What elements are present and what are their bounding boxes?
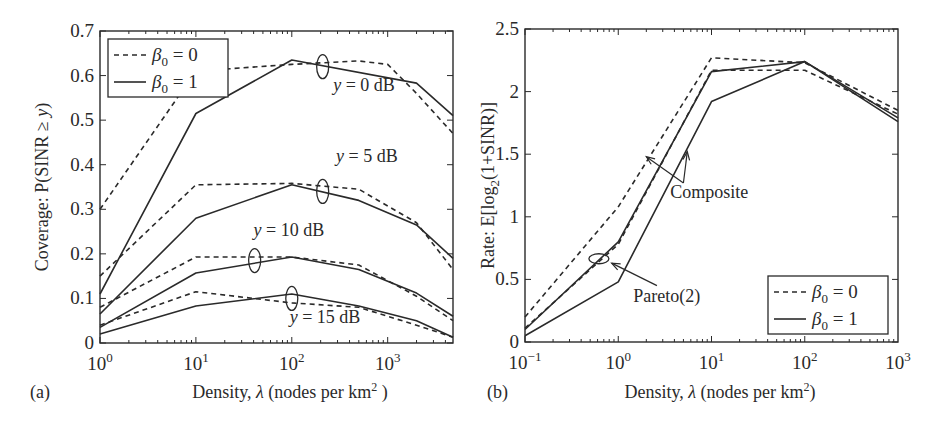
x-tick-base: 10 (699, 352, 718, 373)
x-tick-base: 10 (375, 353, 394, 374)
annotation-var: y (288, 307, 298, 327)
x-tick-exponent: 0 (625, 349, 632, 364)
legend-value: = 1 (828, 308, 858, 329)
y-axis-title: Coverage: P(SINR ≥ y) (32, 103, 53, 271)
y-axis-title: Rate: E[log2(1+SINR)] (478, 102, 502, 269)
curve-annotation: y = 10 dB (252, 220, 325, 240)
x-tick-exponent: 1 (718, 349, 725, 364)
x-tick-exponent: 0 (106, 350, 113, 365)
x-tick-base: 10 (885, 352, 904, 373)
y-tick-label: 0.5 (70, 109, 94, 130)
panel-b-rate-chart: 10−110010110210300.511.522.5CompositePar… (478, 18, 911, 403)
annotation-text: Composite (670, 182, 748, 202)
legend-beta: β (151, 71, 162, 92)
chart-canvas: 10010110210300.10.20.30.40.50.60.7y = 0 … (0, 0, 943, 433)
y-tick-label: 1.5 (495, 143, 519, 164)
panel-label: (b) (487, 382, 508, 403)
annotation-text: Pareto(2) (633, 286, 700, 307)
curve-annotation: y = 5 dB (334, 146, 398, 166)
legend-beta: β (811, 308, 822, 329)
curve-group-ellipse (249, 249, 261, 273)
x-tick-label: 102 (279, 350, 305, 374)
x-tick-base: 10 (279, 353, 298, 374)
y-tick-label: 1 (510, 206, 520, 227)
y-tick-label: 0.6 (70, 65, 94, 86)
y-title-var: y (32, 109, 52, 119)
x-tick-exponent: 3 (904, 349, 911, 364)
x-tick-label: 103 (375, 350, 401, 374)
legend-beta: β (811, 281, 822, 302)
curve-annotation: Pareto(2) (633, 286, 700, 307)
x-axis-title: Density, λ (nodes per km2) (624, 380, 815, 403)
y-tick-label: 0 (85, 332, 95, 353)
x-tick-exponent: 3 (394, 350, 401, 365)
x-title-part: (nodes per km (696, 382, 803, 403)
y-tick-label: 0.3 (70, 198, 94, 219)
x-title-var: λ (687, 382, 696, 402)
annotation-var: y (334, 146, 344, 166)
x-tick-exponent: 1 (202, 350, 209, 365)
figure: 10010110210300.10.20.30.40.50.60.7y = 0 … (0, 0, 943, 433)
y-tick-label: 0.7 (70, 20, 94, 41)
y-title-part: ) (32, 103, 53, 109)
x-tick-label: 101 (699, 349, 725, 373)
x-tick-label: 100 (87, 350, 113, 374)
x-tick-label: 100 (606, 349, 632, 373)
series-line (100, 185, 453, 314)
annotation-text: = 10 dB (262, 220, 325, 240)
y-tick-label: 0.5 (495, 268, 519, 289)
y-title-part: Rate: E[log (478, 187, 498, 269)
annotation-text: = 15 dB (298, 307, 361, 327)
x-tick-exponent: 2 (298, 350, 305, 365)
x-tick-label: 102 (792, 349, 818, 373)
x-tick-label: 103 (885, 349, 911, 373)
x-title-part: ) (810, 382, 816, 403)
curve-annotation: y = 0 dB (331, 75, 395, 95)
annotation-text: = 5 dB (344, 146, 398, 166)
y-tick-label: 2.5 (495, 18, 519, 39)
series-line (100, 257, 453, 321)
x-title-part: Density, (192, 382, 256, 402)
panel-a-coverage-chart: 10010110210300.10.20.30.40.50.60.7y = 0 … (30, 20, 453, 403)
x-tick-base: 10 (509, 352, 528, 373)
x-tick-label: 101 (183, 350, 209, 374)
y-tick-label: 0 (510, 331, 520, 352)
legend: β0 = 0β0 = 1 (108, 39, 228, 97)
x-tick-base: 10 (792, 352, 811, 373)
y-tick-label: 0.2 (70, 243, 94, 264)
x-tick-exponent: −1 (528, 349, 542, 364)
x-title-part: (nodes per km (264, 382, 371, 403)
x-tick-label: 10−1 (509, 349, 542, 373)
annotation-text: = 0 dB (341, 75, 395, 95)
legend-value: = 1 (168, 71, 198, 92)
legend-beta: β (151, 44, 162, 65)
x-tick-exponent: 2 (811, 349, 818, 364)
y-tick-label: 2 (510, 81, 520, 102)
x-axis-title: Density, λ (nodes per km2 ) (192, 380, 388, 403)
legend-value: = 0 (168, 44, 198, 65)
y-title-part: (1+SINR)] (478, 102, 499, 180)
y-tick-label: 0.4 (70, 154, 94, 175)
x-title-part: ) (377, 382, 388, 403)
legend-value: = 0 (828, 281, 858, 302)
x-tick-base: 10 (606, 352, 625, 373)
panel-label: (a) (30, 382, 50, 403)
curve-annotation: Composite (670, 182, 748, 202)
x-title-var: λ (255, 382, 264, 402)
x-title-part: Density, (624, 382, 688, 402)
y-tick-label: 0.1 (70, 287, 94, 308)
curve-annotation: y = 15 dB (288, 307, 361, 327)
x-tick-base: 10 (87, 353, 106, 374)
annotation-var: y (252, 220, 262, 240)
annotation-var: y (331, 75, 341, 95)
y-title-part: Coverage: P(SINR ≥ (32, 117, 53, 271)
series-line (100, 292, 453, 338)
legend: β0 = 0β0 = 1 (768, 276, 888, 334)
x-tick-base: 10 (183, 353, 202, 374)
